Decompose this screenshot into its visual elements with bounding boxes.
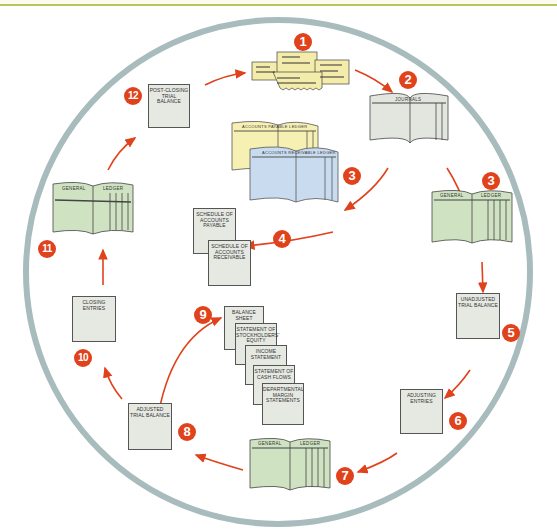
gl7-ledger-label: LEDGER (300, 441, 320, 446)
arrow-6-to-7 (358, 453, 397, 472)
arrow-1-to-2 (355, 70, 392, 92)
general-ledger-book-3 (432, 190, 512, 243)
gl11-ledger-label: LEDGER (103, 186, 123, 191)
cycle-graphics (0, 0, 557, 532)
arrow-11-to-12 (108, 138, 135, 170)
arrow-7-to-8 (196, 455, 243, 470)
adjusting-entries-box: ADJUSTING ENTRIES (400, 389, 443, 434)
arrow-8-to-10 (105, 368, 122, 399)
step-badge-11: 11 (38, 240, 56, 258)
step-badge-1: 1 (294, 33, 312, 51)
departmental-margin-statements-box: DEPARTMENTAL MARGIN STATEMENTS (262, 383, 304, 425)
ar-ledger-label: ACCOUNTS RECEIVABLE LEDGER (262, 150, 336, 155)
unadjusted-trial-balance-box: UNADJUSTED TRIAL BALANCE (456, 293, 500, 339)
gl11-general-label: GENERAL (62, 186, 86, 191)
arrow-3b-to-5 (482, 262, 483, 292)
arrow-12-to-1 (205, 73, 245, 85)
ap-ledger-label: ACCOUNTS PAYABLE LEDGER (242, 124, 307, 129)
step-badge-5: 5 (502, 324, 520, 342)
post-closing-trial-balance-box: POST-CLOSING TRIAL BALANCE (148, 84, 190, 128)
arrow-5-to-6 (445, 370, 470, 398)
step-badge-10: 10 (74, 349, 92, 367)
source-documents (252, 52, 349, 90)
gl7-general-label: GENERAL (258, 441, 282, 446)
step-badge-3-general: 3 (482, 172, 500, 190)
general-ledger-book-7 (250, 438, 330, 490)
step-badge-7: 7 (336, 467, 354, 485)
accounts-receivable-ledger-book (250, 147, 338, 202)
step-badge-2: 2 (399, 71, 417, 89)
gl3-general-label: GENERAL (440, 193, 464, 198)
closing-entries-box: CLOSING ENTRIES (72, 296, 116, 342)
journals-label: JOURNALS (395, 97, 421, 102)
schedule-of-accounts-receivable-box: SCHEDULE OF ACCOUNTS RECEIVABLE (208, 240, 251, 286)
step-badge-4: 4 (273, 230, 291, 248)
step-badge-3-subsidiary: 3 (343, 167, 361, 185)
gl3-ledger-label: LEDGER (481, 193, 501, 198)
step-badge-8: 8 (178, 423, 196, 441)
step-badge-6: 6 (449, 412, 467, 430)
adjusted-trial-balance-box: ADJUSTED TRIAL BALANCE (128, 403, 172, 450)
step-badge-12: 12 (124, 87, 142, 105)
step-badge-9: 9 (194, 306, 212, 324)
